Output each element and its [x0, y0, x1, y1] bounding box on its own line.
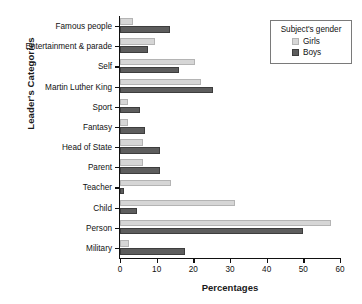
category-label: Child	[93, 203, 112, 212]
x-axis-tick	[193, 258, 194, 263]
bar-boys	[120, 26, 170, 33]
category-label: Head of State	[62, 143, 112, 152]
category-row: Head of State	[120, 137, 340, 157]
x-axis-tick-label: 10	[152, 265, 161, 274]
bar-boys	[120, 87, 213, 94]
bar-girls	[120, 240, 129, 247]
bar-girls	[120, 200, 235, 207]
bar-girls	[120, 220, 331, 227]
x-axis-tick-label: 20	[189, 265, 198, 274]
category-row: Martin Luther King	[120, 77, 340, 97]
bar-girls	[120, 119, 128, 126]
category-label: Military	[86, 243, 112, 252]
legend-swatch-boys	[292, 49, 299, 56]
category-row: Military	[120, 238, 340, 258]
category-row: Child	[120, 198, 340, 218]
bar-boys	[120, 67, 179, 74]
legend-label: Boys	[303, 48, 321, 57]
bar-boys	[120, 167, 160, 174]
bar-boys	[120, 248, 185, 255]
category-label: Entertainment & parade	[26, 42, 112, 51]
x-axis-tick	[120, 258, 121, 263]
x-axis-tick	[157, 258, 158, 263]
category-label: Fantasy	[83, 122, 112, 131]
bar-girls	[120, 99, 128, 106]
bar-boys	[120, 188, 124, 195]
category-label: Martin Luther King	[45, 82, 112, 91]
legend-swatch-girls	[292, 38, 299, 45]
bar-girls	[120, 139, 143, 146]
x-axis-tick	[303, 258, 304, 263]
legend-title: Subject's gender	[276, 25, 346, 34]
category-label: Parent	[88, 163, 112, 172]
category-label: Famous people	[56, 22, 112, 31]
bar-girls	[120, 38, 155, 45]
legend: Subject's gender GirlsBoys	[270, 20, 352, 64]
x-axis-tick	[230, 258, 231, 263]
x-axis-tick-label: 30	[225, 265, 234, 274]
legend-item: Boys	[292, 48, 346, 57]
bar-boys	[120, 107, 140, 114]
category-row: Person	[120, 218, 340, 238]
bar-boys	[120, 46, 148, 53]
x-axis-tick-label: 60	[335, 265, 344, 274]
bar-boys	[120, 208, 137, 215]
category-row: Parent	[120, 157, 340, 177]
x-axis-tick-label: 40	[262, 265, 271, 274]
x-axis-tick	[340, 258, 341, 263]
bar-girls	[120, 159, 143, 166]
bar-girls	[120, 79, 201, 86]
legend-item: Girls	[292, 37, 346, 46]
y-axis-title: Leader's Categories	[25, 0, 36, 174]
category-row: Sport	[120, 97, 340, 117]
category-label: Sport	[92, 102, 112, 111]
bar-girls	[120, 180, 171, 187]
category-label: Self	[98, 62, 112, 71]
legend-label: Girls	[303, 37, 320, 46]
category-label: Person	[86, 223, 112, 232]
bar-boys	[120, 127, 145, 134]
category-row: Teacher	[120, 177, 340, 197]
x-axis-tick-label: 0	[118, 265, 123, 274]
x-axis-tick-label: 50	[299, 265, 308, 274]
x-axis-tick	[267, 258, 268, 263]
category-row: Fantasy	[120, 117, 340, 137]
bar-girls	[120, 18, 133, 25]
bar-girls	[120, 59, 195, 66]
bar-boys	[120, 147, 160, 154]
bar-boys	[120, 228, 303, 235]
x-axis-title: Percentages	[120, 282, 340, 293]
bar-chart: Leader's Categories Famous peopleEnterta…	[0, 0, 362, 304]
category-label: Teacher	[83, 183, 112, 192]
